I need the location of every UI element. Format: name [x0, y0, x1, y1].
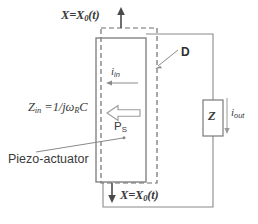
- output-current-label: iout: [231, 107, 244, 118]
- arrow-down-current-icon: [224, 98, 229, 134]
- arrow-up-icon: [117, 7, 125, 28]
- leader-line-d-icon: [155, 50, 178, 69]
- dielectric-displacement-label: D: [181, 46, 190, 58]
- wire-top: [146, 34, 213, 100]
- displacement-bottom-label: X=X0(t): [120, 189, 158, 202]
- load-impedance-label: Z: [208, 110, 216, 123]
- arrow-down-icon: [108, 183, 116, 203]
- piezo-actuator-label: Piezo-actuator: [8, 153, 89, 166]
- displacement-top-label: X=X0(t): [61, 9, 99, 22]
- power-flow-label: PS: [114, 121, 127, 133]
- input-current-label: iin: [111, 66, 120, 77]
- input-impedance-label: Zin =1/jωRC: [28, 101, 88, 114]
- diagram-canvas: X=X0(t) X=X0(t) Zin =1/jωRC iin PS D Z i…: [0, 0, 258, 224]
